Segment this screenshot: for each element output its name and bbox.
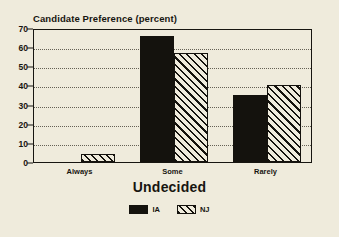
y-axis-tick-label: 50 [4, 62, 28, 72]
legend-entry-ia: IA [129, 205, 160, 214]
chart-figure: Candidate Preference (percent) 010203040… [0, 0, 339, 237]
chart-legend: IANJ [0, 205, 339, 214]
bar-some-nj [174, 53, 208, 162]
legend-entry-nj: NJ [177, 205, 210, 214]
chart-title: Candidate Preference (percent) [33, 13, 177, 24]
bar-some-ia [140, 36, 174, 162]
legend-swatch-icon [177, 205, 196, 214]
y-axis-tick-label: 40 [4, 81, 28, 91]
y-axis-tick-label: 30 [4, 101, 28, 111]
x-axis-title: Undecided [0, 179, 339, 195]
y-axis-tick-label: 60 [4, 43, 28, 53]
bar-always-nj [81, 154, 115, 162]
x-axis-tick-label: Always [67, 167, 93, 176]
legend-label: IA [152, 205, 160, 214]
plot-area [33, 29, 312, 163]
y-axis-tick-label: 10 [4, 139, 28, 149]
x-axis-tick-label: Some [162, 167, 182, 176]
y-axis-tick-label: 20 [4, 120, 28, 130]
x-axis-tick-label: Rarely [254, 167, 277, 176]
bar-rarely-nj [267, 85, 301, 162]
legend-swatch-icon [129, 205, 148, 214]
bar-rarely-ia [233, 95, 267, 162]
plot-inner [34, 30, 311, 162]
y-axis-tick-label: 0 [4, 158, 28, 168]
y-axis-tick-label: 70 [4, 24, 28, 34]
legend-label: NJ [200, 205, 210, 214]
